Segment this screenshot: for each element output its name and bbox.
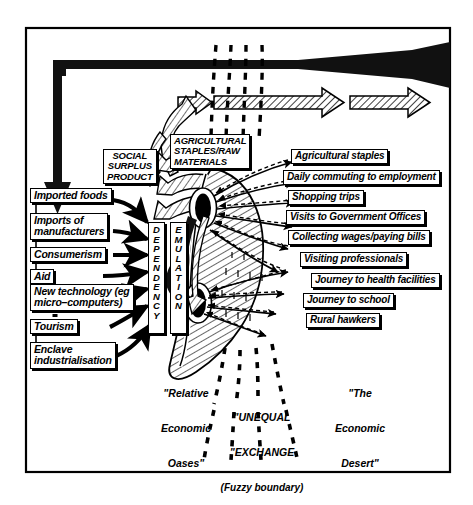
output-shopping-trips[interactable]: Shopping trips [288,190,364,205]
output-visiting-professionals-label: Visiting professionals [304,253,403,264]
flow-agri-raw-line2: STAPLES/RAW [174,146,246,156]
column-dependency[interactable]: DEPENDENCY [148,222,165,334]
output-visiting-professionals[interactable]: Visiting professionals [300,252,407,267]
column-dependency-label: DEPENDENCY [149,225,164,320]
input-tourism[interactable]: Tourism [30,319,78,334]
output-visits-government-offices[interactable]: Visits to Government Offices [286,210,425,225]
diagram-canvas: Imported foods Imports of manufacturers … [0,0,473,505]
input-enclave-line2: industrialisation [34,355,112,366]
flow-agricultural-staples-raw-materials[interactable]: AGRICULTURAL STAPLES/RAW MATERIALS [170,134,250,169]
output-daily-commuting[interactable]: Daily commuting to employment [283,170,440,185]
caption-desert-line1: "The [318,388,402,400]
hatched-outflow-arrows [178,88,430,117]
input-aid-label: Aid [34,270,50,282]
output-journey-health-facilities[interactable]: Journey to health facilities [311,273,440,288]
output-rural-hawkers-label: Rural hawkers [310,314,376,325]
flow-social-surplus-line2: SURPLUS [107,161,153,171]
output-rural-hawkers[interactable]: Rural hawkers [306,313,380,328]
input-imports-of-manufacturers[interactable]: Imports of manufacturers [30,213,108,240]
output-agricultural-staples-label: Agricultural staples [295,150,384,161]
flow-social-surplus-line3: PRODUCT [107,172,153,182]
flow-social-surplus-product[interactable]: SOCIAL SURPLUS PRODUCT [103,149,157,184]
output-journey-health-label: Journey to health facilities [315,274,436,285]
input-new-technology[interactable]: New technology (eg micro–computers) [30,284,134,311]
column-emulation[interactable]: EMULATION [170,222,187,334]
output-collecting-wages-label: Collecting wages/paying bills [292,231,426,242]
input-imported-foods-label: Imported foods [34,189,108,201]
caption-unequal-exchange: "UNEQUAL "EXCHANGE (Fuzzy boundary) [210,388,314,505]
caption-unequal-line2: "EXCHANGE [210,447,314,459]
input-enclave-industrialisation[interactable]: Enclave industrialisation [30,342,116,369]
caption-the-economic-desert: "The Economic Desert" [318,364,402,482]
output-daily-commuting-label: Daily commuting to employment [287,171,436,182]
column-emulation-label: EMULATION [171,225,186,311]
input-arrows [103,200,150,356]
output-journey-to-school[interactable]: Journey to school [303,293,394,308]
fuzzy-boundary-dashes-top [211,45,262,140]
input-consumerism[interactable]: Consumerism [30,247,106,262]
input-consumerism-label: Consumerism [34,248,102,260]
caption-desert-line2: Economic [318,423,402,435]
output-shopping-trips-label: Shopping trips [292,191,360,202]
output-visits-government-label: Visits to Government Offices [290,211,421,222]
output-collecting-wages[interactable]: Collecting wages/paying bills [288,230,430,245]
caption-unequal-line1: "UNEQUAL [210,412,314,424]
caption-desert-line3: Desert" [318,458,402,470]
input-new-technology-line2: micro–computers) [34,297,130,308]
output-agricultural-staples[interactable]: Agricultural staples [291,149,388,164]
caption-unequal-line3: (Fuzzy boundary) [210,482,314,493]
input-imported-foods[interactable]: Imported foods [30,188,112,203]
input-tourism-label: Tourism [34,320,74,332]
flow-agri-raw-line3: MATERIALS [174,157,246,167]
output-journey-school-label: Journey to school [307,294,390,305]
input-imports-line2: manufacturers [34,226,104,237]
input-aid[interactable]: Aid [30,269,54,284]
